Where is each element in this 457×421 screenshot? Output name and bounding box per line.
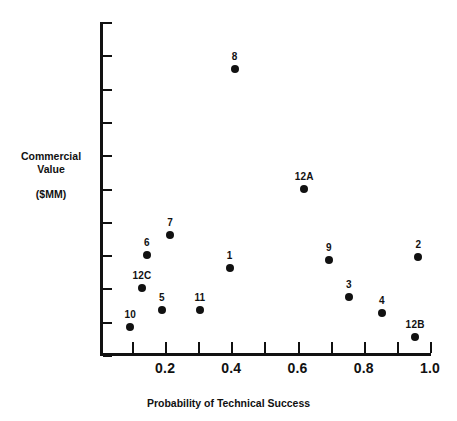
y-axis-title-line1: Commercial [21, 150, 81, 162]
data-point [196, 306, 204, 314]
x-axis-tick [364, 342, 366, 353]
data-point-label: 5 [159, 292, 165, 303]
y-axis-tick [103, 255, 112, 257]
data-point [345, 293, 353, 301]
x-axis-title: Probability of Technical Success [0, 397, 457, 409]
x-axis-tick-label: 0.2 [155, 360, 175, 376]
data-point [300, 185, 308, 193]
x-axis-tick [132, 342, 134, 353]
x-axis-tick [331, 342, 333, 353]
x-axis-tick [397, 342, 399, 353]
data-point-label: 4 [379, 295, 385, 306]
data-point-label: 6 [144, 237, 150, 248]
y-axis-title-line2: Value [37, 163, 64, 175]
x-axis-tick-label: 1.0 [420, 360, 440, 376]
data-point-label: 1 [227, 250, 233, 261]
y-axis-title: Commercial Value ($MM) [8, 150, 94, 201]
x-axis-tick-label: 0.8 [354, 360, 374, 376]
data-point-label: 2 [416, 239, 422, 250]
data-point [226, 264, 234, 272]
data-point-label: 7 [167, 217, 173, 228]
y-axis-tick [103, 22, 112, 24]
data-point [126, 323, 134, 331]
data-point-label: 11 [194, 292, 205, 303]
data-point-label: 3 [346, 279, 352, 290]
data-point [411, 333, 419, 341]
x-axis-tick [198, 342, 200, 353]
data-point-label: 8 [232, 51, 238, 62]
data-point [166, 231, 174, 239]
data-point [138, 284, 146, 292]
x-axis-tick [165, 342, 167, 353]
x-axis-tick [430, 342, 432, 353]
data-point-label: 9 [326, 242, 332, 253]
scatter-plot-figure: 0.20.40.60.81.0 Commercial Value ($MM) P… [0, 0, 457, 421]
data-point [414, 253, 422, 261]
data-point [231, 65, 239, 73]
y-axis-tick [103, 89, 112, 91]
y-axis-tick [103, 189, 112, 191]
y-axis-tick [103, 55, 112, 57]
x-axis-tick-label: 0.6 [288, 360, 308, 376]
data-point-label: 10 [125, 309, 137, 320]
data-point [158, 306, 166, 314]
x-axis-tick [298, 342, 300, 353]
data-point-label: 12A [295, 171, 314, 182]
x-axis-tick [231, 342, 233, 353]
x-axis-tick [264, 342, 266, 353]
x-axis-line [100, 353, 431, 356]
data-point-label: 12C [132, 270, 151, 281]
y-axis-tick [103, 155, 112, 157]
y-axis-tick [103, 222, 112, 224]
data-point [325, 256, 333, 264]
data-point-label: 12B [406, 319, 425, 330]
x-axis-tick-label: 0.4 [221, 360, 241, 376]
y-axis-tick [103, 322, 112, 324]
y-axis-tick [103, 122, 112, 124]
y-axis-title-unit: ($MM) [8, 188, 94, 201]
data-point [378, 309, 386, 317]
data-point [143, 251, 151, 259]
y-axis-tick [103, 288, 112, 290]
